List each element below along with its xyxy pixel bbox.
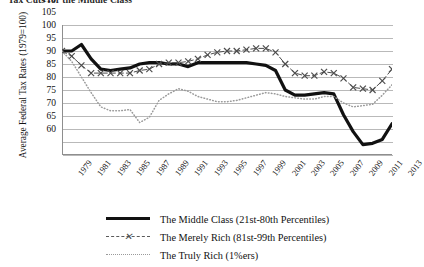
- x-tick-label: 2009: [367, 158, 385, 178]
- y-tick-label: 95: [30, 34, 56, 43]
- x-marker-icon: [292, 70, 298, 76]
- x-marker-icon: [195, 56, 201, 62]
- x-tick-label: 1987: [153, 158, 171, 178]
- x-tick-label: 1997: [250, 158, 268, 178]
- y-tick-label: 110: [30, 0, 56, 4]
- x-tick-label: 1991: [192, 158, 210, 178]
- x-tick-label: 1999: [270, 158, 288, 178]
- legend-item-middle-class: The Middle Class (21st-80th Percentiles): [104, 210, 404, 228]
- legend-item-truly-rich: The Truly Rich (1%ers): [104, 246, 404, 264]
- legend-label-merely-rich: The Merely Rich (81st-99th Percentiles): [160, 232, 326, 243]
- chart-legend: The Middle Class (21st-80th Percentiles)…: [104, 210, 404, 264]
- x-marker-icon: [78, 62, 84, 68]
- x-marker-icon: ✕: [124, 232, 132, 242]
- x-tick-label: 2013: [406, 158, 424, 178]
- legend-key-dotted-line: [104, 248, 152, 262]
- x-tick-label: 1985: [134, 158, 152, 178]
- legend-item-merely-rich: ✕ The Merely Rich (81st-99th Percentiles…: [104, 228, 404, 246]
- y-axis-tick-labels: 1101051009590858075706560: [26, 0, 56, 130]
- x-tick-label: 1989: [173, 158, 191, 178]
- legend-key-dashed-x-line: ✕: [104, 230, 152, 244]
- x-tick-label: 1979: [76, 158, 94, 178]
- x-tick-label: 2003: [309, 158, 327, 178]
- y-tick-label: 60: [30, 125, 56, 134]
- x-marker-icon: [389, 66, 392, 72]
- x-tick-label: 2011: [386, 158, 404, 177]
- series-line-middle_class: [62, 45, 392, 145]
- x-marker-icon: [185, 58, 191, 64]
- y-tick-label: 70: [30, 99, 56, 108]
- x-marker-icon: [69, 53, 75, 59]
- x-tick-label: 2007: [347, 158, 365, 178]
- legend-label-middle-class: The Middle Class (21st-80th Percentiles): [160, 214, 329, 225]
- x-marker-icon: [88, 70, 94, 76]
- y-tick-label: 85: [30, 60, 56, 69]
- y-tick-label: 75: [30, 86, 56, 95]
- legend-label-truly-rich: The Truly Rich (1%ers): [160, 250, 258, 261]
- x-tick-label: 1981: [95, 158, 113, 178]
- y-tick-label: 90: [30, 47, 56, 56]
- legend-key-solid-line: [104, 212, 152, 226]
- x-tick-label: 2001: [289, 158, 307, 178]
- y-tick-label: 100: [30, 21, 56, 30]
- x-tick-label: 1993: [211, 158, 229, 178]
- chart-title: Tax Cuts for the Middle Class: [8, 0, 338, 4]
- x-tick-label: 2005: [328, 158, 346, 178]
- x-marker-icon: [282, 61, 288, 67]
- x-axis-tick-labels: 1979198119831985198719891991199319951997…: [62, 158, 402, 198]
- series-layer: [62, 25, 392, 156]
- x-marker-icon: [205, 52, 211, 58]
- x-tick-label: 1983: [114, 158, 132, 178]
- x-marker-icon: [321, 69, 327, 75]
- y-tick-label: 105: [30, 8, 56, 17]
- x-marker-icon: [340, 75, 346, 81]
- x-marker-icon: [379, 78, 385, 84]
- y-tick-label: 80: [30, 73, 56, 82]
- x-tick-label: 1995: [231, 158, 249, 178]
- x-marker-icon: [273, 49, 279, 55]
- y-tick-label: 65: [30, 112, 56, 121]
